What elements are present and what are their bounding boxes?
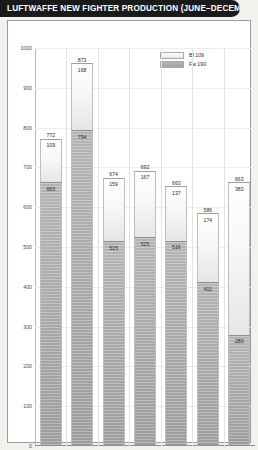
bar-total-label: 772: [46, 132, 55, 138]
bar-texture: [135, 238, 155, 445]
bar-group[interactable]: 772109663June: [35, 48, 66, 446]
bar-segment-label-bf109: 516: [172, 244, 181, 250]
bar-group[interactable]: 586174411November: [192, 48, 223, 446]
bar-segment-fw190[interactable]: 674159: [103, 178, 125, 241]
bar-stack[interactable]: 692167525: [134, 171, 156, 446]
y-axis-tick-label: 600: [23, 204, 32, 210]
page-title: LUFTWAFFE NEW FIGHTER PRODUCTION (JUNE–D…: [0, 4, 240, 13]
bar-stack[interactable]: 663137516: [165, 186, 187, 446]
bar-total-label: 873: [78, 57, 87, 63]
plot-area: 01002003004005006007008009001000 7721096…: [35, 48, 255, 446]
bar-stack[interactable]: 873168794: [71, 63, 93, 446]
bar-texture: [41, 183, 61, 445]
bar-stack[interactable]: 663383280: [228, 182, 250, 446]
y-axis-tick-label: 1000: [20, 45, 32, 51]
y-axis-tick-label: 900: [23, 85, 32, 91]
y-axis-tick-label: 100: [23, 403, 32, 409]
y-axis-tick-label: 300: [23, 324, 32, 330]
bar-segment-fw190[interactable]: 692167: [134, 171, 156, 237]
bar-stack[interactable]: 772109663: [40, 139, 62, 446]
bar-total-label: 663: [235, 176, 244, 182]
y-axis-tick-label: 700: [23, 164, 32, 170]
bar-segment-label-bf109: 525: [141, 241, 150, 247]
bar-texture: [72, 131, 92, 445]
bar-segment-label-bf109: 663: [46, 186, 55, 192]
bar-segment-fw190[interactable]: 663383: [228, 182, 250, 334]
bar-segment-fw190[interactable]: 586174: [197, 213, 219, 282]
bar-segment-label-bf109: 411: [204, 286, 212, 292]
bar-segment-bf109[interactable]: 411: [197, 282, 219, 446]
bar-segment-fw190[interactable]: 873168: [71, 63, 93, 130]
bar-group[interactable]: 692167525September: [129, 48, 160, 446]
bar-segment-label-fw190: 109: [46, 142, 55, 148]
bar-group[interactable]: 663383280December: [224, 48, 255, 446]
bar-segment-label-fw190: 167: [141, 174, 150, 180]
bar-segment-fw190[interactable]: 663137: [165, 186, 187, 241]
bar-segment-label-fw190: 174: [204, 217, 213, 223]
bar-segment-bf109[interactable]: 280: [228, 335, 250, 446]
bar-segment-bf109[interactable]: 663: [40, 182, 62, 446]
bar-group[interactable]: 873168794July: [66, 48, 97, 446]
bar-total-label: 663: [172, 180, 181, 186]
bar-texture: [166, 242, 186, 445]
bar-segment-label-bf109: 794: [78, 134, 87, 140]
y-axis-tick-label: 400: [23, 284, 32, 290]
bar-texture: [104, 242, 124, 445]
bar-segment-label-fw190: 383: [235, 186, 244, 192]
y-axis-tick-label: 800: [23, 125, 32, 131]
bar-total-label: 674: [109, 171, 118, 177]
bar-total-label: 692: [141, 164, 150, 170]
bar-stack[interactable]: 674159515: [103, 178, 125, 446]
bar-segment-fw190[interactable]: 772109: [40, 139, 62, 182]
bar-segment-bf109[interactable]: 794: [71, 130, 93, 446]
y-axis-tick-label: 0: [29, 443, 32, 449]
chart-page: LUFTWAFFE NEW FIGHTER PRODUCTION (JUNE–D…: [0, 0, 258, 450]
bar-group[interactable]: 674159515August: [98, 48, 129, 446]
y-axis-tick-label: 500: [23, 244, 32, 250]
chart-frame: Bf 109 Fw 190 01002003004005006007008009…: [7, 20, 251, 443]
bar-segment-bf109[interactable]: 525: [134, 237, 156, 446]
bar-segment-bf109[interactable]: 516: [165, 241, 187, 446]
chart-title-bar: LUFTWAFFE NEW FIGHTER PRODUCTION (JUNE–D…: [0, 0, 240, 17]
bar-segment-label-bf109: 515: [109, 245, 118, 251]
y-axis-tick-label: 200: [23, 363, 32, 369]
bar-texture: [198, 283, 218, 445]
bar-segment-label-bf109: 280: [235, 338, 244, 344]
bar-segment-label-fw190: 159: [109, 181, 118, 187]
bar-stack[interactable]: 586174411: [197, 213, 219, 446]
bar-segment-label-fw190: 137: [172, 190, 181, 196]
bar-segment-bf109[interactable]: 515: [103, 241, 125, 446]
bar-group[interactable]: 663137516October: [161, 48, 192, 446]
bar-texture: [229, 336, 249, 445]
bar-segment-label-fw190: 168: [78, 67, 87, 73]
bar-total-label: 586: [204, 207, 213, 213]
